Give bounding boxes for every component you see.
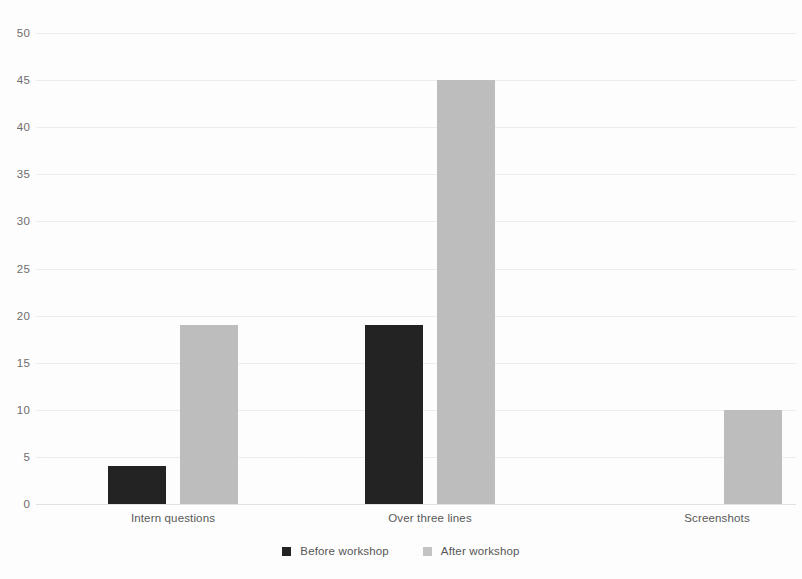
- x-axis-category-label: Intern questions: [131, 512, 215, 524]
- y-axis-tick-label: 45: [0, 74, 30, 86]
- legend-item-after[interactable]: After workshop: [423, 545, 520, 557]
- gridline: [36, 316, 796, 317]
- y-axis-tick-label: 5: [0, 451, 30, 463]
- y-axis-tick-labels: 05101520253035404550: [0, 33, 30, 504]
- y-axis-tick-label: 0: [0, 498, 30, 510]
- legend-item-before[interactable]: Before workshop: [282, 545, 389, 557]
- bar-before-0: [108, 466, 166, 504]
- y-axis-tick-label: 10: [0, 404, 30, 416]
- x-axis-category-label: Over three lines: [388, 512, 472, 524]
- gridline: [36, 221, 796, 222]
- plot-area: [36, 33, 796, 504]
- gridline: [36, 127, 796, 128]
- y-axis-tick-label: 35: [0, 168, 30, 180]
- gridline: [36, 269, 796, 270]
- bar-after-2: [724, 410, 782, 504]
- y-axis-tick-label: 50: [0, 27, 30, 39]
- legend-swatch-icon: [423, 547, 432, 556]
- gridline: [36, 33, 796, 34]
- legend-label: After workshop: [441, 545, 520, 557]
- gridline: [36, 504, 796, 505]
- y-axis-tick-label: 20: [0, 310, 30, 322]
- y-axis-tick-label: 15: [0, 357, 30, 369]
- gridline: [36, 174, 796, 175]
- y-axis-tick-label: 40: [0, 121, 30, 133]
- gridline: [36, 80, 796, 81]
- legend-swatch-icon: [282, 547, 291, 556]
- chart-legend: Before workshopAfter workshop: [0, 545, 802, 557]
- x-axis-category-label: Screenshots: [684, 512, 750, 524]
- bar-after-0: [180, 325, 238, 504]
- y-axis-tick-label: 30: [0, 215, 30, 227]
- bar-before-1: [365, 325, 423, 504]
- bar-after-1: [437, 80, 495, 504]
- y-axis-tick-label: 25: [0, 263, 30, 275]
- bar-chart: 05101520253035404550 Intern questionsOve…: [0, 0, 802, 579]
- legend-label: Before workshop: [300, 545, 389, 557]
